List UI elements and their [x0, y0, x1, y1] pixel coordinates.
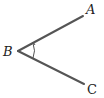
ray-BC — [18, 51, 84, 84]
label-A: A — [86, 3, 95, 16]
angle-arc-icon — [33, 43, 35, 58]
label-C: C — [87, 83, 97, 96]
label-B: B — [3, 45, 13, 58]
ray-BA — [18, 16, 83, 51]
